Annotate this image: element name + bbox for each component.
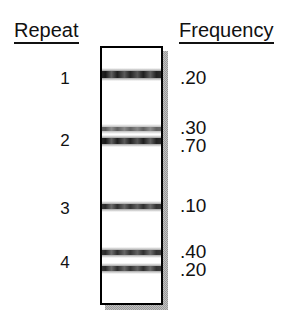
band-blur-bottom <box>102 209 161 212</box>
band-blur-bottom <box>102 144 161 147</box>
column-header-frequency-label: Frequency <box>179 20 274 44</box>
gel-band-repeat2-freq30 <box>102 127 161 131</box>
band-core <box>102 71 161 78</box>
gel-band-repeat4-freq40 <box>102 250 161 255</box>
gel-band-repeat1-freq20 <box>102 71 161 78</box>
band-blur-top <box>102 135 161 138</box>
band-blur-top <box>102 124 161 127</box>
column-header-frequency: Frequency <box>179 20 274 44</box>
band-blur-top <box>102 68 161 71</box>
repeat-label-4: 4 <box>48 254 82 271</box>
gel-band-repeat4-freq20 <box>102 266 161 271</box>
gel-lane-interior <box>102 48 161 303</box>
gel-frequency-figure: Repeat Frequency 1234 .20.30.70.10.40.20 <box>0 0 300 336</box>
band-blur-bottom <box>102 131 161 134</box>
repeat-label-1: 1 <box>48 70 82 87</box>
band-blur-bottom <box>102 271 161 274</box>
column-header-repeat-label: Repeat <box>14 20 79 44</box>
band-blur-bottom <box>102 78 161 81</box>
band-blur-top <box>102 201 161 204</box>
band-blur-top <box>102 263 161 266</box>
repeat-label-2: 2 <box>48 132 82 149</box>
column-header-repeat: Repeat <box>14 20 79 44</box>
frequency-value-3: .70 <box>180 136 206 155</box>
frequency-value-4: .10 <box>180 196 206 215</box>
repeat-label-3: 3 <box>48 200 82 217</box>
gel-lane-box <box>100 46 163 305</box>
band-blur-top <box>102 247 161 250</box>
gel-band-repeat3-freq10 <box>102 204 161 209</box>
frequency-value-1: .20 <box>180 68 206 87</box>
gel-band-repeat2-freq70 <box>102 138 161 144</box>
band-blur-bottom <box>102 255 161 258</box>
frequency-value-6: .20 <box>180 260 206 279</box>
